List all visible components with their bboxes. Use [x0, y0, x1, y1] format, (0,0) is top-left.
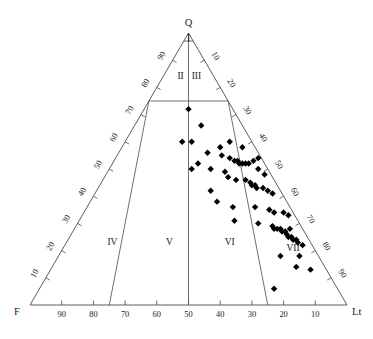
tick-right-50: [264, 169, 268, 171]
tick-label-bottom-40: 40: [216, 310, 224, 319]
tick-label-left-60: 60: [108, 132, 120, 144]
data-point: [225, 174, 231, 180]
field-labels: IIIIIIIVVVIVII: [107, 33, 299, 252]
data-point: [207, 166, 213, 172]
data-point: [307, 266, 313, 272]
tick-left-50: [109, 169, 113, 171]
field-label-V: V: [166, 237, 173, 247]
field-label-VII: VII: [287, 243, 300, 253]
tick-label-right-10: 10: [210, 50, 222, 62]
tick-label-right-40: 40: [257, 132, 269, 144]
tick-label-left-40: 40: [76, 186, 88, 198]
vertex-label-Q: Q: [185, 17, 193, 28]
tick-label-bottom-70: 70: [121, 310, 129, 319]
field-label-I: I: [187, 33, 190, 43]
tick-label-left-90: 90: [155, 50, 167, 62]
field-label-IV: IV: [107, 237, 117, 247]
tick-label-bottom-20: 20: [279, 310, 287, 319]
data-point: [255, 166, 261, 172]
tick-left-60: [125, 142, 129, 144]
tick-left-80: [157, 87, 161, 89]
field-label-II: II: [177, 71, 183, 81]
data-point: [231, 217, 237, 223]
tick-label-right-30: 30: [241, 104, 253, 116]
data-point: [214, 198, 220, 204]
data-point: [217, 144, 223, 150]
data-point: [252, 204, 258, 210]
tick-right-80: [311, 251, 315, 253]
field-label-III: III: [192, 71, 202, 81]
data-point: [227, 139, 233, 145]
field-label-VI: VI: [225, 237, 235, 247]
data-point: [188, 139, 194, 145]
vertex-label-F: F: [14, 306, 20, 317]
tick-left-20: [62, 251, 66, 253]
tick-label-right-60: 60: [289, 186, 301, 198]
data-point: [219, 152, 225, 158]
tick-label-right-90: 90: [336, 268, 348, 280]
tick-label-bottom-90: 90: [58, 310, 66, 319]
tick-label-left-80: 80: [140, 77, 152, 89]
tick-left-10: [46, 278, 50, 280]
tick-right-20: [216, 87, 220, 89]
tick-right-30: [232, 115, 236, 117]
tick-right-10: [200, 60, 204, 62]
data-point: [222, 169, 228, 175]
divider-left-oblique: [109, 101, 149, 305]
data-point-series: [179, 106, 314, 292]
ternary-diagram-figure: 9080706050403020101020304050607080901020…: [0, 0, 373, 339]
data-point: [255, 220, 261, 226]
data-point: [261, 171, 267, 177]
data-point: [204, 149, 210, 155]
vertex-label-Lt: Lt: [352, 306, 361, 317]
tick-left-70: [141, 115, 145, 117]
data-point: [239, 144, 245, 150]
data-point: [188, 166, 194, 172]
tick-label-right-70: 70: [305, 213, 317, 225]
data-point: [198, 122, 204, 128]
tick-label-right-50: 50: [273, 159, 285, 171]
data-point: [233, 177, 239, 183]
tick-label-left-50: 50: [92, 159, 104, 171]
data-point: [296, 253, 302, 259]
tick-label-bottom-30: 30: [248, 310, 256, 319]
tick-label-right-20: 20: [225, 77, 237, 89]
tick-label-right-80: 80: [320, 240, 332, 252]
data-point: [230, 204, 236, 210]
tick-label-bottom-60: 60: [153, 310, 161, 319]
tick-label-bottom-80: 80: [89, 310, 97, 319]
data-point: [271, 285, 277, 291]
data-point: [293, 264, 299, 270]
data-point: [277, 253, 283, 259]
tick-left-40: [93, 196, 97, 198]
tick-right-40: [248, 142, 252, 144]
tick-right-70: [296, 223, 300, 225]
tick-label-left-30: 30: [60, 213, 72, 225]
ternary-plot-canvas: 9080706050403020101020304050607080901020…: [0, 0, 373, 339]
tick-label-bottom-10: 10: [311, 310, 319, 319]
tick-label-left-70: 70: [124, 104, 136, 116]
tick-label-left-20: 20: [45, 240, 57, 252]
tick-left-30: [78, 223, 82, 225]
tick-right-60: [280, 196, 284, 198]
tick-left-90: [173, 60, 177, 62]
data-point: [195, 160, 201, 166]
divider-right-oblique: [228, 101, 268, 305]
tick-right-90: [327, 278, 331, 280]
vertex-labels: QFLt: [14, 17, 361, 317]
data-point: [207, 188, 213, 194]
tick-label-bottom-50: 50: [184, 310, 192, 319]
data-point: [179, 139, 185, 145]
tick-label-left-10: 10: [29, 268, 41, 280]
data-point: [185, 106, 191, 112]
